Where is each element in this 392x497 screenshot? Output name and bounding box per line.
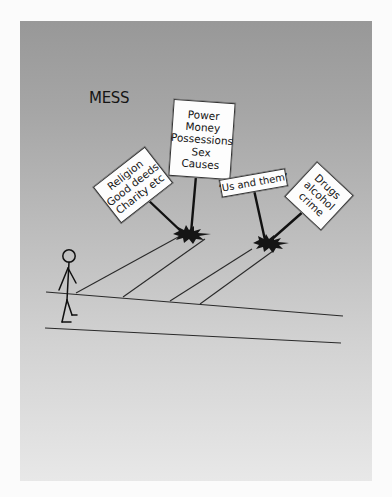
stick-figure-icon — [59, 250, 77, 322]
burst-icon — [253, 234, 289, 253]
burst-icon — [173, 225, 211, 244]
pole-drugs — [271, 210, 305, 240]
sign-line: Causes — [181, 157, 220, 172]
diagram-title: MESS — [89, 89, 129, 107]
side-path-1 — [76, 236, 180, 293]
side-paths — [76, 236, 273, 304]
figure-head — [63, 250, 75, 262]
path-top-edge — [46, 292, 343, 316]
side-path-2 — [123, 239, 205, 297]
sign-power: Power Money Possessions Sex Causes — [168, 99, 235, 180]
diagram-drawing — [0, 0, 392, 497]
pole-power — [191, 176, 196, 233]
path-bottom-edge — [45, 328, 341, 343]
pole-us-and-them — [254, 190, 265, 240]
path-lines — [45, 292, 343, 343]
